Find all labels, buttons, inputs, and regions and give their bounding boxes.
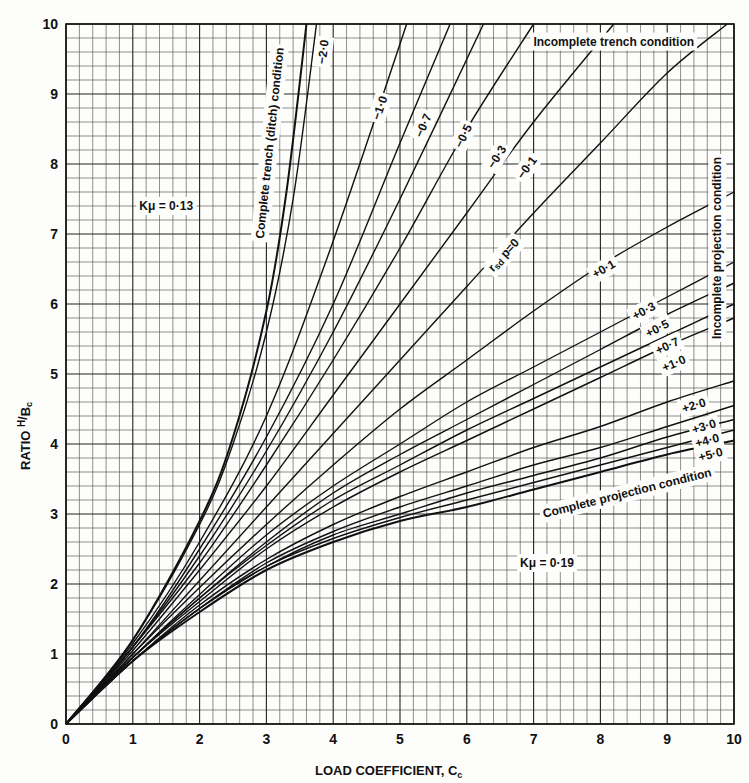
- y-tick-label: 8: [50, 156, 58, 172]
- y-tick-label: 6: [50, 296, 58, 312]
- load-coefficient-chart: Kμ = 0·13Kμ = 0·19Incomplete trench cond…: [0, 0, 749, 783]
- y-tick-label: 10: [42, 16, 58, 32]
- annotation-label: Kμ = 0·13: [136, 197, 196, 215]
- annotation-label: Incomplete projection condition: [708, 154, 726, 342]
- annotation-label: Kμ = 0·19: [517, 554, 577, 572]
- y-tick-label: 2: [50, 576, 58, 592]
- x-axis-title: LOAD COEFFICIENT, Cc: [315, 763, 462, 780]
- y-tick-label: 0: [50, 716, 58, 732]
- x-tick-label: 3: [263, 731, 271, 747]
- x-tick-label: 1: [129, 731, 137, 747]
- x-tick-label: 10: [726, 731, 742, 747]
- x-tick-label: 2: [196, 731, 204, 747]
- svg-text:Incomplete trench condition: Incomplete trench condition: [533, 35, 694, 49]
- x-tick-label: 4: [329, 731, 337, 747]
- x-tick-label: 6: [463, 731, 471, 747]
- y-tick-label: 4: [50, 436, 58, 452]
- y-axis-title: RATIO H/Bc: [16, 402, 34, 470]
- x-tick-label: 8: [597, 731, 605, 747]
- x-tick-label: 7: [530, 731, 538, 747]
- x-tick-label: 0: [62, 731, 70, 747]
- x-tick-label: 5: [396, 731, 404, 747]
- x-tick-label: 9: [663, 731, 671, 747]
- y-tick-label: 5: [50, 366, 58, 382]
- annotation-label: Incomplete trench condition: [530, 33, 697, 51]
- y-tick-label: 7: [50, 226, 58, 242]
- y-tick-label: 3: [50, 506, 58, 522]
- svg-text:Kμ = 0·13: Kμ = 0·13: [139, 199, 193, 213]
- svg-text:Kμ = 0·19: Kμ = 0·19: [520, 556, 574, 570]
- y-tick-label: 9: [50, 86, 58, 102]
- svg-text:Incomplete projection conditio: Incomplete projection condition: [710, 157, 724, 339]
- y-tick-label: 1: [50, 646, 58, 662]
